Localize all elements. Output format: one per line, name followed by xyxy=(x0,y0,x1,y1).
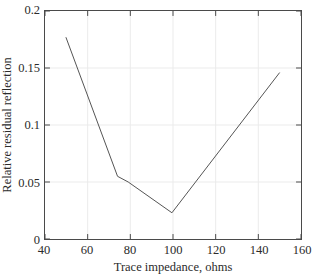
y-axis-title: Relative residual reflection xyxy=(1,57,14,192)
x-tick-label: 160 xyxy=(293,244,312,257)
x-tick-label: 100 xyxy=(164,244,183,257)
y-tick-label: 0.2 xyxy=(14,4,40,17)
plot-area xyxy=(44,10,302,240)
x-tick-label: 140 xyxy=(250,244,269,257)
y-tick-label: 0.1 xyxy=(14,119,40,132)
y-tick-label: 0.15 xyxy=(14,61,40,74)
y-tick-label: 0 xyxy=(14,234,40,247)
x-tick-label: 120 xyxy=(207,244,226,257)
y-tick-label: 0.05 xyxy=(14,176,40,189)
x-tick-label: 60 xyxy=(81,244,94,257)
x-axis-title: Trace impedance, ohms xyxy=(44,261,302,274)
x-tick-label: 80 xyxy=(124,244,137,257)
chart-figure: 406080100120140160 00.050.10.150.2 Trace… xyxy=(0,0,313,279)
data-series-line xyxy=(45,11,301,239)
